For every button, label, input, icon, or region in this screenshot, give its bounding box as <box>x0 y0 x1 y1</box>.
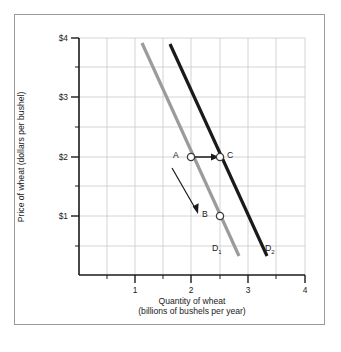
x-tick-label-3: 3 <box>240 285 256 295</box>
curve-label-d2: D2 <box>265 243 275 255</box>
point-label-c: C <box>227 150 233 160</box>
y-axis-title: Price of wheat (dollars per bushel) <box>17 57 27 257</box>
curve-label-d1-sub: 1 <box>218 249 221 255</box>
arrow-a-to-b-icon <box>172 168 199 214</box>
curve-label-d2-sub: 2 <box>271 249 274 255</box>
demand-curve-d1 <box>142 43 239 256</box>
point-label-a: A <box>173 150 179 160</box>
y-tick-label-3: $3 <box>42 92 68 102</box>
y-tick-label-1: $1 <box>42 211 68 221</box>
x-tick-label-4: 4 <box>297 285 313 295</box>
grid-horizontal-lines <box>79 38 305 246</box>
arrow-a-to-c-icon <box>195 153 219 160</box>
data-point-a <box>187 153 194 160</box>
demand-curve-d2 <box>170 44 267 256</box>
point-label-b: B <box>202 209 208 219</box>
x-tick-label-1: 1 <box>127 285 143 295</box>
y-tick-label-2: $2 <box>42 152 68 162</box>
data-point-c <box>216 153 223 160</box>
x-axis-title: Quantity of wheat (billions of bushels p… <box>78 297 306 317</box>
x-axis-title-line2: (billions of bushels per year) <box>78 307 306 317</box>
x-tick-label-2: 2 <box>183 285 199 295</box>
demand-shift-chart-figure: $4 $3 $2 $1 1 2 3 4 A B C D1 D2 Price of… <box>0 0 341 352</box>
curve-label-d1: D1 <box>212 243 222 255</box>
data-point-b <box>216 212 223 219</box>
y-tick-label-4: $4 <box>42 33 68 43</box>
